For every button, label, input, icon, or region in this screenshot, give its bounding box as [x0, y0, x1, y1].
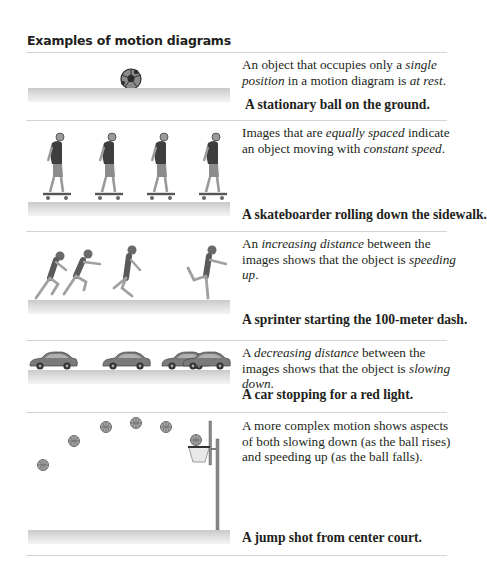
desc-text: An object that occupies only a: [242, 57, 405, 72]
figure-car: [28, 341, 230, 401]
desc-text: A: [242, 345, 254, 360]
desc-text: A more complex motion shows aspects of b…: [242, 418, 450, 464]
basketball-figures: [28, 413, 230, 533]
ground-strip: [28, 88, 230, 102]
desc-text: .: [442, 141, 445, 156]
figure-skateboarder: [28, 121, 230, 226]
skateboarder-figures: [28, 121, 230, 211]
basketball-icon: [38, 418, 202, 471]
desc-emphasis: constant speed: [364, 141, 442, 156]
figure-sprinter: [28, 232, 230, 336]
ground-strip: [28, 300, 230, 314]
desc-text: in a motion diagram is: [285, 73, 410, 88]
section-title: Examples of motion diagrams: [27, 33, 231, 48]
description-text: An increasing distance between the image…: [242, 236, 457, 283]
figure-caption: A car stopping for a red light.: [242, 387, 413, 403]
skateboarder-icon: [43, 133, 227, 200]
desc-text: .: [443, 73, 446, 88]
example-row-basketball: A more complex motion shows aspects of b…: [0, 413, 481, 555]
description-text: A more complex motion shows aspects of b…: [242, 418, 457, 465]
figure-caption: A jump shot from center court.: [242, 530, 422, 546]
ground-strip: [28, 202, 230, 216]
figure-stationary-ball: [28, 53, 230, 113]
example-row-car: A decreasing distance between the images…: [0, 341, 481, 412]
car-icon: [30, 352, 230, 370]
figure-caption: A skateboarder rolling down the sidewalk…: [242, 207, 487, 223]
desc-emphasis: at rest: [410, 73, 443, 88]
ground-strip: [28, 370, 230, 384]
desc-text: Images that are: [242, 125, 326, 140]
ground-strip: [28, 530, 230, 544]
desc-emphasis: decreasing distance: [254, 345, 359, 360]
figure-caption: A stationary ball on the ground.: [245, 97, 430, 113]
desc-text: .: [255, 267, 258, 282]
figure-caption: A sprinter starting the 100-meter dash.: [242, 312, 467, 328]
sprinter-icon: [36, 246, 226, 299]
description-text: Images that are equally spaced indicate …: [242, 125, 457, 156]
divider: [26, 555, 447, 556]
description-text: A decreasing distance between the images…: [242, 345, 457, 392]
desc-text: An: [242, 236, 261, 251]
example-row-stationary-ball: An object that occupies only a single po…: [0, 53, 481, 120]
figure-basketball: [28, 413, 230, 553]
desc-emphasis: equally spaced: [326, 125, 405, 140]
example-row-skateboarder: Images that are equally spaced indicate …: [0, 121, 481, 231]
example-row-sprinter: An increasing distance between the image…: [0, 232, 481, 340]
description-text: An object that occupies only a single po…: [242, 57, 457, 88]
desc-emphasis: increasing distance: [261, 236, 363, 251]
